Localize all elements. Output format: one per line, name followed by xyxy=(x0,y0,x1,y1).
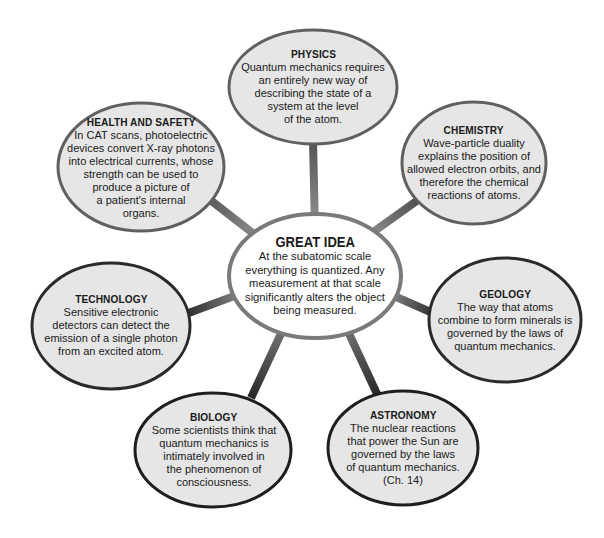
bubble-title: HEALTH AND SAFETY xyxy=(87,116,196,129)
bubble-body: Wave-particle duality explains the posit… xyxy=(407,137,541,202)
bubble-astronomy: ASTRONOMY The nuclear reactions that pow… xyxy=(328,394,478,502)
bubble-title: ASTRONOMY xyxy=(370,409,437,422)
bubble-body: Some scientists think that quantum mecha… xyxy=(152,424,277,489)
bubble-physics: PHYSICS Quantum mechanics requires an en… xyxy=(229,32,397,142)
bubble-title: CHEMISTRY xyxy=(444,124,504,137)
bubble-geology: GEOLOGY The way that atoms combine to fo… xyxy=(428,262,582,378)
bubble-biology: BIOLOGY Some scientists think that quant… xyxy=(136,396,292,504)
bubble-title: GEOLOGY xyxy=(479,288,531,301)
bubble-chemistry: CHEMISTRY Wave-particle duality explains… xyxy=(400,104,548,222)
bubble-body: In CAT scans, photoelectric devices conv… xyxy=(67,129,215,220)
center-bubble: GREAT IDEA At the subatomic scale everyt… xyxy=(229,216,401,336)
bubble-body: Sensitive electronic detectors can detec… xyxy=(44,306,177,358)
great-idea-concept-map: GREAT IDEA At the subatomic scale everyt… xyxy=(0,0,604,538)
bubble-body: The nuclear reactions that power the Sun… xyxy=(346,422,460,487)
bubble-title: BIOLOGY xyxy=(190,411,237,424)
bubble-body: Quantum mechanics requires an entirely n… xyxy=(241,61,385,126)
bubble-health-and-safety: HEALTH AND SAFETY In CAT scans, photoele… xyxy=(58,106,224,230)
bubble-technology: TECHNOLOGY Sensitive electronic detector… xyxy=(32,266,190,384)
bubble-title: TECHNOLOGY xyxy=(75,293,147,306)
center-body: At the subatomic scale everything is qua… xyxy=(245,250,385,318)
center-title: GREAT IDEA xyxy=(275,234,355,250)
bubble-title: PHYSICS xyxy=(290,48,335,61)
bubble-body: The way that atoms combine to form miner… xyxy=(438,301,573,353)
